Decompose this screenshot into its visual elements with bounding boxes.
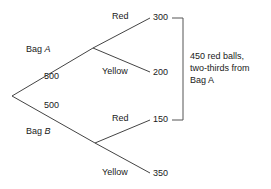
bag-b-label: Bag B xyxy=(26,126,51,137)
leaf-label-b-red: Red xyxy=(112,113,129,124)
bag-a-label: Bag A xyxy=(26,44,51,55)
edge-bag-a-to-red xyxy=(93,18,150,48)
annotation-line-2: two-thirds from xyxy=(190,62,250,74)
bracket-annotation: 450 red balls, two-thirds from Bag A xyxy=(190,50,250,86)
probability-tree-diagram: Bag A 500 500 Bag B Red 300 Yellow 200 R… xyxy=(0,0,271,189)
leaf-label-b-yellow: Yellow xyxy=(102,167,128,178)
leaf-label-a-red: Red xyxy=(112,11,129,22)
leaf-value-b-red: 150 xyxy=(153,114,168,125)
bag-a-count: 500 xyxy=(44,71,59,82)
annotation-line-1: 450 red balls, xyxy=(190,50,250,62)
leaf-value-b-yellow: 350 xyxy=(153,168,168,179)
annotation-line-3: Bag A xyxy=(190,74,250,86)
leaf-label-a-yellow: Yellow xyxy=(102,66,128,77)
leaf-value-a-red: 300 xyxy=(153,12,168,23)
bag-b-count: 500 xyxy=(44,100,59,111)
tree-lines-svg xyxy=(0,0,271,189)
leaf-value-a-yellow: 200 xyxy=(153,67,168,78)
